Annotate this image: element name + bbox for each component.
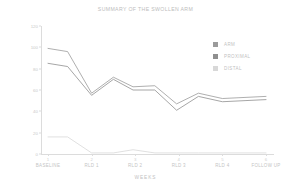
y-tick-label: 60 xyxy=(33,88,38,93)
x-tick-label: RLD 3 xyxy=(172,163,186,168)
chart-legend: ARM PROXIMAL DISTAL xyxy=(213,38,283,74)
legend-label: PROXIMAL xyxy=(224,54,250,59)
legend-swatch-icon xyxy=(213,54,218,59)
x-tick-mark xyxy=(222,154,223,156)
x-tick-number: 5 xyxy=(221,157,223,162)
y-tick-label: 20 xyxy=(33,130,38,135)
legend-item-arm[interactable]: ARM xyxy=(213,38,283,50)
y-tick-label: 120 xyxy=(31,24,38,29)
chart-container: SUMMARY OF THE SWOLLEN ARM PERCENTAGE WE… xyxy=(0,0,291,192)
y-tick-label: 0 xyxy=(36,152,38,157)
x-tick-mark xyxy=(48,154,49,156)
x-tick-label: RLD 2 xyxy=(128,163,142,168)
x-tick-mark xyxy=(266,154,267,156)
series-line-distal xyxy=(48,137,266,153)
x-axis-label: WEEKS xyxy=(0,175,291,180)
x-axis-line xyxy=(41,154,274,155)
x-tick-number: 4 xyxy=(178,157,180,162)
y-tick-label: 80 xyxy=(33,66,38,71)
x-tick-label: FOLLOW UP xyxy=(251,163,280,168)
x-tick-mark xyxy=(92,154,93,156)
x-tick-number: 2 xyxy=(90,157,92,162)
chart-title: SUMMARY OF THE SWOLLEN ARM xyxy=(0,6,291,12)
legend-swatch-icon xyxy=(213,42,218,47)
legend-swatch-icon xyxy=(213,66,218,71)
legend-item-distal[interactable]: DISTAL xyxy=(213,62,283,74)
x-tick-mark xyxy=(179,154,180,156)
y-tick-label: 100 xyxy=(31,45,38,50)
x-tick-label: RLD 4 xyxy=(215,163,229,168)
x-tick-label: BASELINE xyxy=(36,163,60,168)
x-tick-mark xyxy=(135,154,136,156)
legend-label: ARM xyxy=(224,42,235,47)
x-tick-number: 6 xyxy=(265,157,267,162)
x-tick-number: 1 xyxy=(47,157,49,162)
x-tick-label: RLD 1 xyxy=(84,163,98,168)
legend-item-proximal[interactable]: PROXIMAL xyxy=(213,50,283,62)
legend-label: DISTAL xyxy=(224,66,242,71)
x-tick-number: 3 xyxy=(134,157,136,162)
y-tick-label: 40 xyxy=(33,109,38,114)
